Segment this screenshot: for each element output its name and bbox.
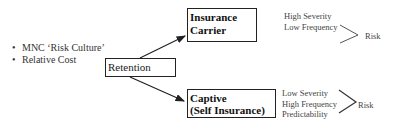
factor-item: •MNC ‘Risk Culture’: [12, 42, 105, 54]
factor-list: •MNC ‘Risk Culture’ •Relative Cost: [12, 42, 105, 66]
captive-box: Captive (Self Insurance): [187, 89, 276, 118]
captive-attributes: Low Severity High Frequency Predictabili…: [282, 88, 337, 120]
insurance-carrier-box: Insurance Carrier: [187, 8, 257, 42]
bullet-icon: •: [12, 54, 22, 66]
insurance-attributes: High Severity Low Frequency: [284, 11, 338, 33]
factor-item: •Relative Cost: [12, 54, 105, 66]
arrow-to-captive: [130, 77, 184, 101]
arrow-to-insurance: [140, 36, 185, 58]
bracket-top: [340, 25, 358, 43]
captive-risk-label: Risk: [358, 100, 374, 110]
bullet-icon: •: [12, 42, 22, 54]
bracket-bottom: [339, 90, 356, 113]
insurance-risk-label: Risk: [365, 31, 381, 41]
retention-box: Retention: [105, 58, 176, 77]
